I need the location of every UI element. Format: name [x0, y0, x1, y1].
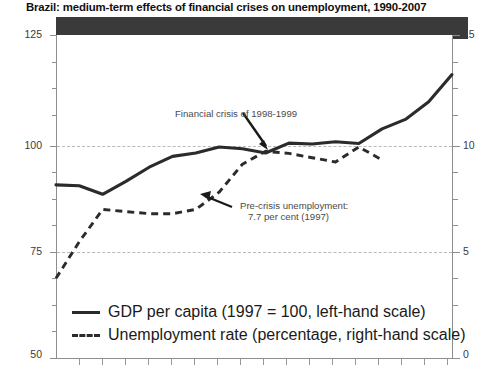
gdp-per-capita-line	[56, 75, 452, 195]
annotation-precrisis-line2: 7.7 per cent (1997)	[248, 211, 329, 223]
legend-swatch-dashed-icon	[72, 334, 100, 337]
unemployment-rate-line	[56, 147, 382, 278]
legend-swatch-solid-icon	[72, 311, 100, 314]
legend-label-gdp: GDP per capita (1997 = 100, left-hand sc…	[108, 303, 426, 321]
annotation-crisis: Financial crisis of 1998-1999	[175, 108, 297, 120]
precrisis-arrow	[200, 191, 232, 207]
legend-label-unemployment: Unemployment rate (percentage, right-han…	[108, 326, 466, 344]
legend-item-gdp: GDP per capita (1997 = 100, left-hand sc…	[72, 303, 426, 321]
annotation-precrisis-line1: Pre-crisis unemployment:	[240, 200, 348, 212]
legend-item-unemployment: Unemployment rate (percentage, right-han…	[72, 326, 466, 344]
